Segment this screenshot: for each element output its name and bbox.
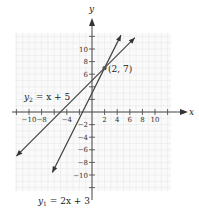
y-tick-label: −2 [78,121,88,129]
line-label-y1: y1 = 2x + 3 [37,196,90,207]
y-tick-label: −10 [73,172,88,180]
x-axis-label: x [189,107,194,117]
x-axis-arrow-icon [180,109,188,115]
x-tick-label: −8 [36,116,46,124]
y-axis-arrow-icon [89,18,95,26]
x-tick-label: 4 [115,116,120,124]
coordinate-plane: x y −10−8−42468101086−2−4−6−8−10 (2, 7) … [0,0,199,210]
y-tick-label: 10 [79,46,88,54]
x-tick-label: 2 [102,116,106,124]
y-tick-label: 6 [84,71,89,79]
y-tick-label: −4 [78,134,89,142]
x-tick-label: 10 [151,116,160,124]
x-tick-label: 6 [128,116,133,124]
x-tick-label: 8 [140,116,144,124]
intersection-label: (2, 7) [108,64,132,74]
x-tick-label: −4 [62,116,73,124]
intersection-point [102,66,106,70]
y-tick-label: −6 [78,146,89,154]
y-axis-label: y [88,4,95,14]
y-tick-label: 8 [84,58,88,66]
x-tick-label: −10 [22,116,37,124]
y-tick-label: −8 [78,159,88,167]
